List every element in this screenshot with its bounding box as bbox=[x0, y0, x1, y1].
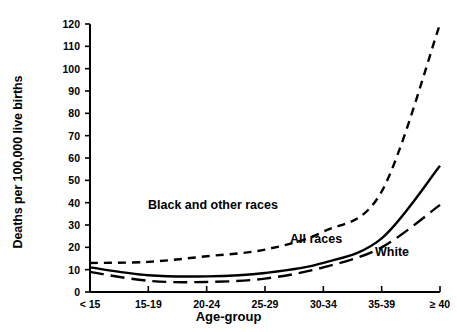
series-lines bbox=[90, 24, 440, 282]
x-axis-tick-label: 25-29 bbox=[233, 299, 297, 310]
y-axis-tick-label: 10 bbox=[46, 265, 80, 275]
x-axis-tick-label: 30-34 bbox=[291, 299, 355, 310]
y-axis-tick-label: 70 bbox=[46, 131, 80, 141]
y-axis-title: Deaths per 100,000 live births bbox=[11, 32, 25, 292]
y-axis-tick-label: 20 bbox=[46, 242, 80, 252]
x-axis-tick-label: 35-39 bbox=[350, 299, 414, 310]
x-axis-tick-label: 20-24 bbox=[175, 299, 239, 310]
y-axis-tick-label: 90 bbox=[46, 86, 80, 96]
y-axis-tick-label: 120 bbox=[46, 19, 80, 29]
y-axis-tick-label: 60 bbox=[46, 153, 80, 163]
series-line-all-races bbox=[90, 166, 440, 277]
y-axis-tick-label: 0 bbox=[46, 287, 80, 297]
x-axis-tick-label: 15-19 bbox=[116, 299, 180, 310]
series-line-white bbox=[90, 205, 440, 282]
x-axis-tick-label: < 15 bbox=[58, 299, 122, 310]
series-label-all-races: All races bbox=[290, 232, 342, 246]
y-axis-tick-label: 110 bbox=[46, 41, 80, 51]
y-axis-tick-label: 30 bbox=[46, 220, 80, 230]
y-axis-tick-label: 80 bbox=[46, 108, 80, 118]
series-label-white: White bbox=[375, 245, 409, 259]
y-axis-tick-label: 40 bbox=[46, 198, 80, 208]
y-axis-tick-label: 50 bbox=[46, 175, 80, 185]
series-line-black-and-other-races bbox=[90, 24, 440, 263]
y-axis-tick-label: 100 bbox=[46, 64, 80, 74]
series-label-black-and-other-races: Black and other races bbox=[148, 198, 278, 212]
x-axis-title: Age-group bbox=[0, 309, 457, 324]
chart-figure: Deaths per 100,000 live births Age-group… bbox=[0, 0, 457, 332]
x-axis-tick-label: ≥ 40 bbox=[408, 299, 457, 310]
